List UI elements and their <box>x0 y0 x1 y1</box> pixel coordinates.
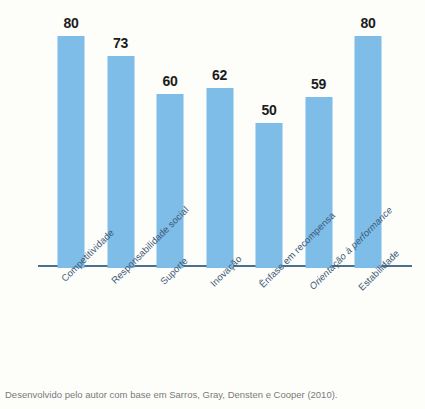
bar-column: 73 <box>98 3 144 268</box>
bar-value-label: 73 <box>113 35 128 51</box>
bar-value-label: 59 <box>311 76 326 92</box>
bar-value-label: 80 <box>63 15 78 31</box>
bar-value-label: 62 <box>212 67 227 83</box>
bar-chart-figure: 80736062505980 CompetitividadeResponsabi… <box>0 0 425 409</box>
bar[interactable] <box>58 36 85 268</box>
bar-value-label: 80 <box>360 15 375 31</box>
bar-column: 50 <box>246 3 292 268</box>
figure-caption: Desenvolvido pelo autor com base em Sarr… <box>5 388 420 402</box>
bar-column: 62 <box>197 3 243 268</box>
bar-value-label: 50 <box>261 102 276 118</box>
bar[interactable] <box>256 123 283 268</box>
bar-value-label: 60 <box>162 73 177 89</box>
bar[interactable] <box>206 88 233 268</box>
category-axis-labels: CompetitividadeResponsabilidade socialSu… <box>0 268 425 373</box>
bar-column: 80 <box>48 3 94 268</box>
